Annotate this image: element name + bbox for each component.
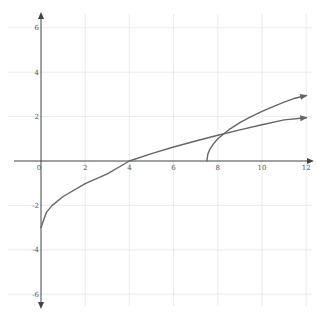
tick-labels: 024681012642-2-4-6	[32, 24, 310, 298]
grid-lines	[8, 14, 312, 306]
curve-2	[207, 96, 306, 162]
y-tick-label: 2	[35, 113, 39, 121]
x-tick-label: 12	[302, 164, 311, 172]
y-axis-down-arrow-icon	[38, 302, 44, 309]
y-tick-label: -6	[32, 291, 39, 299]
y-tick-label: -4	[32, 246, 39, 254]
x-tick-label: 0	[37, 164, 41, 172]
y-axis-up-arrow-icon	[38, 12, 44, 19]
x-tick-label: 10	[258, 164, 267, 172]
x-tick-label: 4	[127, 164, 132, 172]
y-tick-label: -2	[32, 202, 39, 210]
x-tick-label: 6	[171, 164, 176, 172]
y-tick-label: 6	[35, 24, 40, 32]
axes	[14, 12, 314, 309]
x-tick-label: 2	[83, 164, 87, 172]
graph-plot: 024681012642-2-4-6	[0, 0, 317, 313]
x-tick-label: 8	[216, 164, 220, 172]
y-tick-label: 4	[35, 69, 40, 77]
